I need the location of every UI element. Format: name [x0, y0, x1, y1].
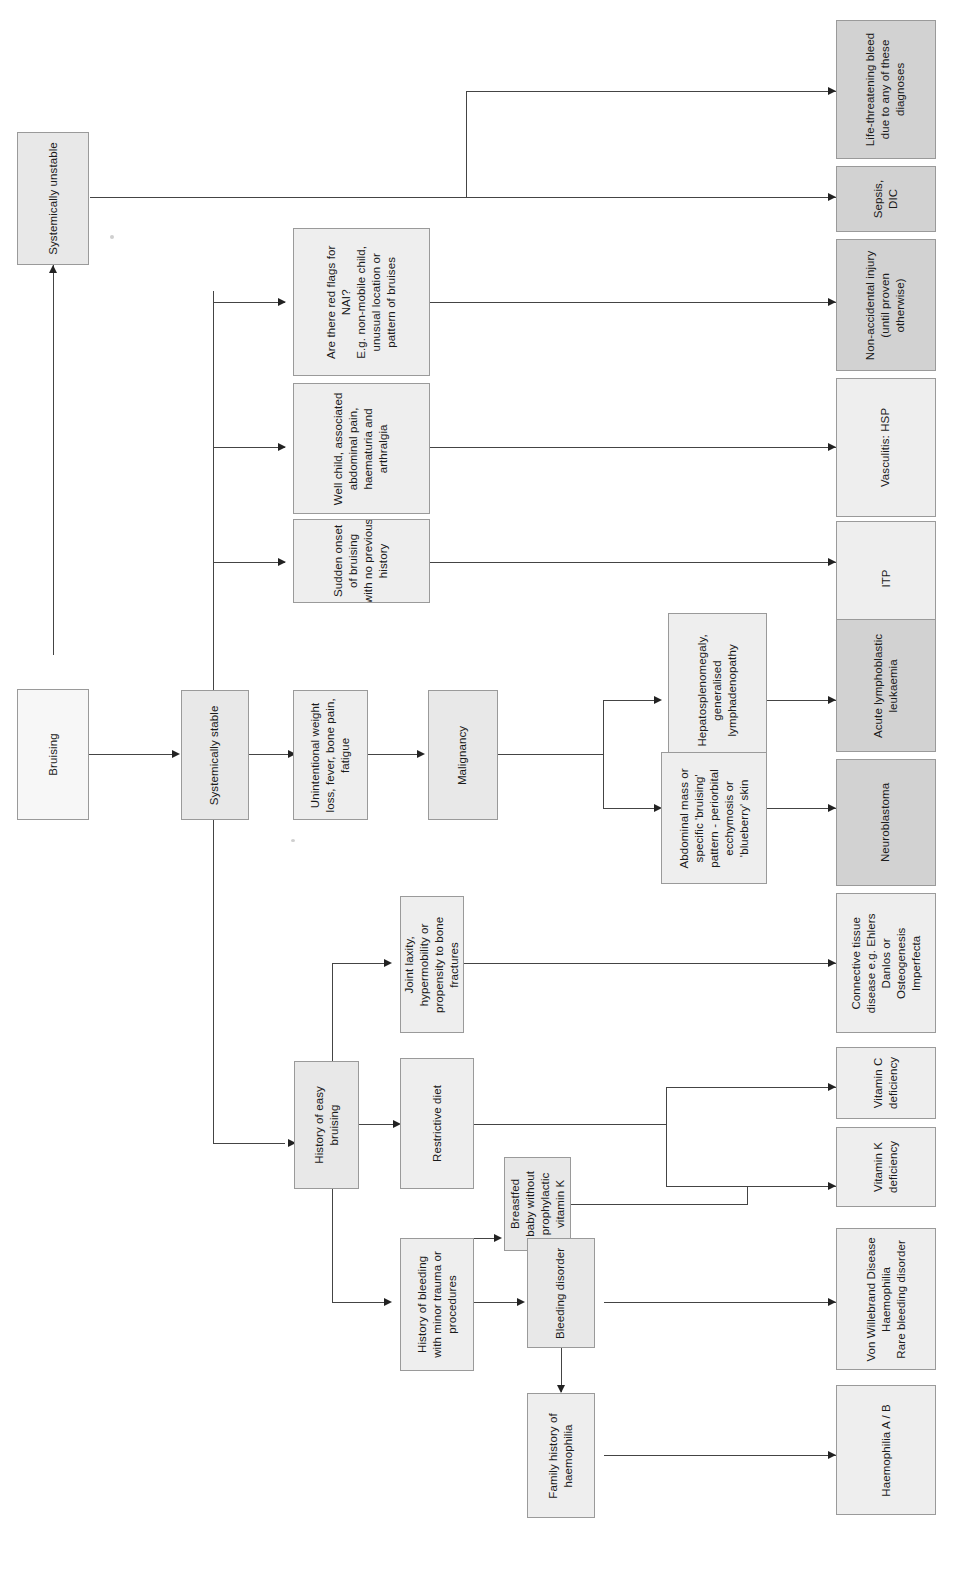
outcome-life-threatening-bleed[interactable]: Life-threatening bleed due to any of the…	[836, 20, 936, 159]
outcome-neuroblastoma[interactable]: Neuroblastoma	[836, 759, 936, 886]
connector-disorder-to-outcome	[604, 1302, 836, 1303]
connector-family-to-haemophilia	[604, 1455, 836, 1456]
connector-breastfed-to-vitk-h2	[656, 1204, 748, 1205]
arrowhead	[828, 1451, 836, 1459]
node-label: Bruising	[46, 733, 61, 775]
connector-malignancy-to-neuro-features	[603, 808, 660, 809]
outcome-label: Vasculitis: HSP	[879, 408, 894, 487]
connector-neuro-features-to-neuro	[767, 808, 836, 809]
connector-malignancy-stem	[498, 754, 604, 755]
arrowhead	[828, 87, 836, 95]
outcome-label: Acute lymphoblastic leukaemia	[871, 633, 901, 737]
node-systemically-stable[interactable]: Systemically stable	[181, 690, 249, 820]
connector-unstable-branch-up	[466, 91, 467, 198]
connector-stable-to-malignancy-features	[249, 754, 289, 755]
connector-malignancy-to-all-features	[603, 700, 660, 701]
outcome-acute-lymphoblastic-leukaemia[interactable]: Acute lymphoblastic leukaemia	[836, 619, 936, 752]
outcome-label: Life-threatening bleed due to any of the…	[864, 33, 909, 146]
node-breastfed-no-vitamin-k[interactable]: Breastfed baby without prophylactic vita…	[504, 1157, 571, 1251]
arrowhead	[828, 1083, 836, 1091]
scan-speck	[291, 839, 295, 842]
node-label: History of bleeding with minor trauma or…	[415, 1251, 460, 1358]
node-malignancy-features[interactable]: Unintentional weight loss, fever, bone p…	[293, 690, 368, 820]
connector-restrictive-split	[666, 1087, 667, 1186]
arrowhead	[557, 1385, 565, 1393]
arrowhead	[654, 696, 662, 704]
outcome-bleeding-disorders[interactable]: Von Willebrand Disease Haemophilia Rare …	[836, 1228, 936, 1370]
node-label: Restrictive diet	[430, 1085, 445, 1162]
arrowhead	[49, 265, 57, 273]
arrowhead	[828, 1182, 836, 1190]
connector-nai-flags-to-nai	[430, 302, 836, 303]
node-bleeding-history[interactable]: History of bleeding with minor trauma or…	[400, 1238, 474, 1371]
node-label: Are there red flags for NAI? E.g. non-mo…	[324, 245, 399, 359]
arrowhead	[828, 804, 836, 812]
connector-stable-to-nai-flags	[213, 302, 285, 303]
outcome-label: Neuroblastoma	[879, 783, 894, 862]
arrowhead	[828, 443, 836, 451]
node-label: Systemically stable	[208, 705, 223, 805]
node-root-bruising[interactable]: Bruising	[17, 689, 89, 820]
arrowhead	[384, 959, 392, 967]
node-label: Abdominal mass or specific 'bruising' pa…	[677, 768, 752, 868]
arrowhead	[172, 750, 180, 758]
node-systemically-unstable[interactable]: Systemically unstable	[17, 132, 89, 265]
node-label: Breastfed baby without prophylactic vita…	[508, 1171, 568, 1237]
node-bleeding-disorder[interactable]: Bleeding disorder	[527, 1238, 595, 1348]
outcome-vasculitis-hsp[interactable]: Vasculitis: HSP	[836, 378, 936, 517]
connector-stable-to-hsp-features	[213, 447, 285, 448]
node-hsp-features[interactable]: Well child, associated abdominal pain, h…	[293, 383, 430, 514]
outcome-non-accidental-injury[interactable]: Non-accidental injury (until proven othe…	[836, 239, 936, 371]
node-label: Malignancy	[456, 725, 471, 784]
node-history-easy-bruising[interactable]: History of easy bruising	[294, 1061, 359, 1189]
arrowhead	[278, 298, 286, 306]
outcome-label: ITP	[879, 569, 894, 587]
arrowhead	[828, 298, 836, 306]
arrowhead	[384, 1298, 392, 1306]
node-neuroblastoma-features[interactable]: Abdominal mass or specific 'bruising' pa…	[661, 752, 767, 884]
outcome-haemophilia-a-b[interactable]: Haemophilia A / B	[836, 1385, 936, 1515]
arrowhead	[494, 1234, 502, 1242]
arrowhead	[417, 750, 425, 758]
node-label: Well child, associated abdominal pain, h…	[332, 392, 392, 505]
connector-easy-to-joint-laxity	[332, 963, 390, 964]
node-label: Joint laxity, hypermobility or propensit…	[402, 916, 462, 1012]
arrowhead	[828, 696, 836, 704]
outcome-sepsis-dic[interactable]: Sepsis, DIC	[836, 166, 936, 232]
node-joint-laxity[interactable]: Joint laxity, hypermobility or propensit…	[400, 896, 464, 1033]
connector-itp-features-to-itp	[430, 562, 836, 563]
node-malignancy[interactable]: Malignancy	[428, 690, 498, 820]
connector-restrictive-stem	[474, 1124, 666, 1125]
outcome-label: Connective tissue disease e.g. Ehlers Da…	[849, 913, 924, 1013]
outcome-vitamin-c-deficiency[interactable]: Vitamin C deficiency	[836, 1047, 936, 1119]
node-nai-red-flags[interactable]: Are there red flags for NAI? E.g. non-mo…	[293, 228, 430, 376]
node-itp-features[interactable]: Sudden onset of bruising with no previou…	[293, 519, 430, 603]
node-label: Systemically unstable	[46, 142, 61, 255]
connector-root-spine-up	[53, 265, 54, 655]
node-label: History of easy bruising	[312, 1086, 342, 1164]
connector-malignancy-features-to-malignancy	[368, 754, 418, 755]
connector-stable-to-itp-features	[213, 562, 285, 563]
outcome-connective-tissue-disease[interactable]: Connective tissue disease e.g. Ehlers Da…	[836, 893, 936, 1033]
outcome-vitamin-k-deficiency[interactable]: Vitamin K deficiency	[836, 1127, 936, 1207]
node-restrictive-diet[interactable]: Restrictive diet	[400, 1058, 474, 1189]
connector-hsp-to-vasculitis	[430, 447, 836, 448]
connector-restrictive-to-vitk	[666, 1186, 836, 1187]
connector-breastfed-to-vitk-v	[747, 1186, 748, 1205]
arrowhead	[828, 1298, 836, 1306]
node-label: Unintentional weight loss, fever, bone p…	[308, 698, 353, 812]
arrowhead	[828, 558, 836, 566]
connector-stable-to-easy-bruising	[213, 1143, 285, 1144]
node-label: Family history of haemophilia	[546, 1413, 576, 1498]
flowchart-canvas: Bruising Systemically unstable Systemica…	[0, 0, 974, 1593]
node-family-history-haemophilia[interactable]: Family history of haemophilia	[527, 1393, 595, 1518]
outcome-label: Sepsis, DIC	[871, 180, 901, 218]
connector-joint-to-connective	[464, 963, 836, 964]
arrowhead	[278, 443, 286, 451]
connector-to-life-threatening	[466, 91, 836, 92]
arrowhead	[278, 558, 286, 566]
connector-stable-spine-up	[213, 291, 214, 690]
connector-restrictive-to-vitc	[666, 1087, 836, 1088]
node-all-features[interactable]: Hepatosplenomegaly, generalised lymphade…	[668, 613, 767, 768]
outcome-label: Non-accidental injury (until proven othe…	[864, 250, 909, 360]
